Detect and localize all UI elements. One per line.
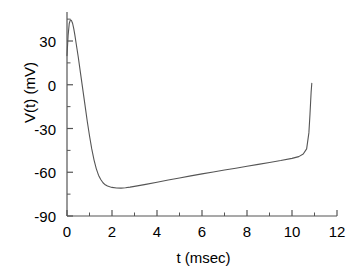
x-tick-label: 4 bbox=[153, 224, 161, 239]
x-tick-label: 12 bbox=[329, 224, 346, 239]
y-tick-label: 0 bbox=[0, 77, 56, 92]
x-tick-label: 0 bbox=[63, 224, 71, 239]
y-tick-label: -60 bbox=[0, 165, 56, 180]
x-tick-label: 2 bbox=[108, 224, 116, 239]
x-tick-label: 10 bbox=[284, 224, 301, 239]
x-tick-label: 6 bbox=[198, 224, 206, 239]
x-tick-label: 8 bbox=[243, 224, 251, 239]
x-axis-label-text: t (msec) bbox=[128, 249, 230, 266]
y-tick-label: 30 bbox=[0, 34, 56, 49]
x-axis-label: t (msec) bbox=[0, 249, 359, 266]
y-tick-label: -30 bbox=[0, 121, 56, 136]
y-tick-label: -90 bbox=[0, 209, 56, 224]
